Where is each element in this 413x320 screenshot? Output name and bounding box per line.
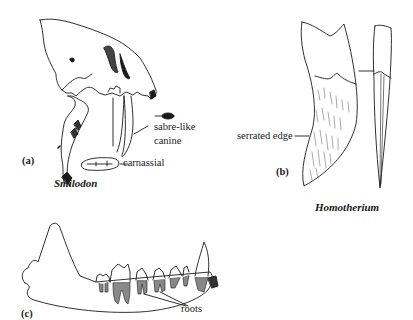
species-label-homotherium: Homotherium [315,202,379,213]
label-carnassial: carnassial [123,158,164,169]
panel-marker-a: (a) [22,156,34,167]
panel-marker-b: (b) [276,167,289,178]
label-serrated-edge: serrated edge [237,131,293,142]
species-label-smilodon: Smilodon [54,178,97,189]
label-roots: roots [181,304,202,315]
panel-marker-c: (c) [21,309,33,320]
mandible-drawing [22,223,218,312]
label-canine: canine [154,136,181,147]
label-sabre-like: sabre-like [154,122,195,133]
homotherium-canine-drawing [295,22,391,188]
